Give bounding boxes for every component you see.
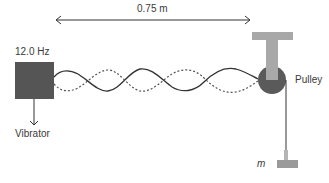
vibrator-label: Vibrator xyxy=(15,128,50,139)
vibrator-box xyxy=(15,62,54,99)
pulley-axle xyxy=(266,66,278,80)
length-label: 0.75 m xyxy=(137,3,168,14)
hanging-mass xyxy=(277,160,298,168)
mass-hook xyxy=(284,150,288,160)
pulley-label: Pulley xyxy=(295,74,322,85)
vibrator-arrow xyxy=(30,99,38,125)
standing-wave-solid xyxy=(54,68,258,91)
mass-label: m xyxy=(257,158,265,169)
length-dimension-arrow xyxy=(56,16,250,24)
standing-wave-dashed xyxy=(54,70,258,92)
frequency-label: 12.0 Hz xyxy=(15,46,49,57)
diagram-canvas xyxy=(0,0,329,183)
